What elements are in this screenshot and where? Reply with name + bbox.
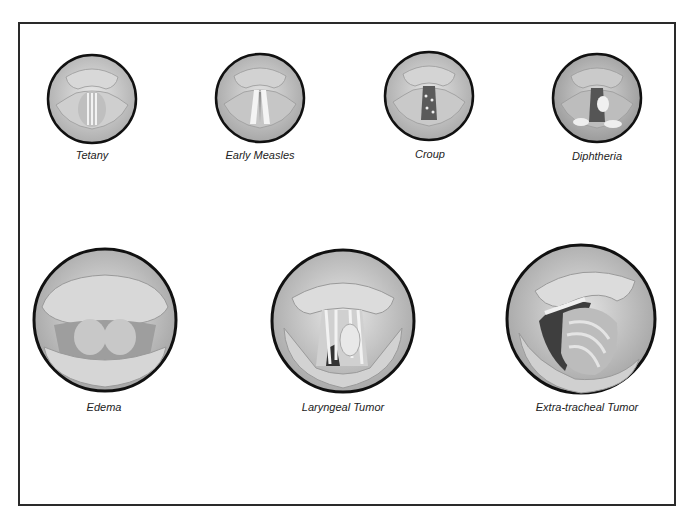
view-tetany: [46, 53, 138, 145]
larynx-laryngeal-tumor-illustration: [270, 248, 416, 394]
view-laryngeal-tumor: [270, 248, 416, 394]
view-early-measles: [214, 52, 306, 144]
caption-extra-tracheal-tumor: Extra-tracheal Tumor: [536, 401, 639, 413]
caption-early-measles: Early Measles: [225, 149, 294, 161]
view-extra-tracheal-tumor: [505, 243, 657, 395]
view-edema: [32, 247, 178, 393]
larynx-diphtheria-illustration: [551, 52, 643, 144]
caption-diphtheria: Diphtheria: [572, 150, 622, 162]
caption-edema: Edema: [87, 401, 122, 413]
larynx-extra-tracheal-tumor-illustration: [505, 243, 657, 395]
larynx-croup-illustration: [383, 50, 475, 142]
view-croup: [383, 50, 475, 142]
caption-croup: Croup: [415, 148, 445, 160]
larynx-tetany-illustration: [46, 53, 138, 145]
view-diphtheria: [551, 52, 643, 144]
larynx-early-measles-illustration: [214, 52, 306, 144]
larynx-edema-illustration: [32, 247, 178, 393]
caption-tetany: Tetany: [76, 149, 109, 161]
caption-laryngeal-tumor: Laryngeal Tumor: [302, 401, 384, 413]
